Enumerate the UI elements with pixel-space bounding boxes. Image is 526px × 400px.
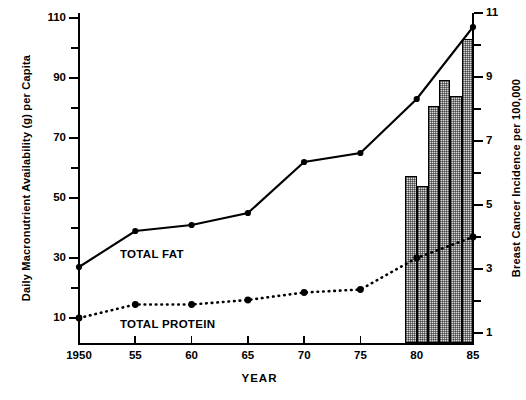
data-point-marker [413, 255, 420, 262]
data-point-marker [301, 289, 308, 296]
data-point-marker [189, 222, 195, 228]
data-point-marker [357, 286, 364, 293]
data-point-marker [76, 264, 82, 270]
total-protein-markers [76, 234, 477, 322]
data-point-marker [188, 301, 195, 308]
data-point-marker [357, 150, 363, 156]
total-fat-markers [76, 24, 476, 270]
data-point-marker [414, 96, 420, 102]
series-label-total-protein: TOTAL PROTEIN [120, 318, 215, 330]
data-point-marker [470, 234, 477, 241]
data-point-marker [132, 301, 139, 308]
data-point-marker [301, 159, 307, 165]
data-point-marker [245, 297, 252, 304]
series-label-total-fat: TOTAL FAT [120, 248, 184, 260]
data-point-marker [245, 210, 251, 216]
data-point-marker [76, 315, 83, 322]
data-point-marker [132, 228, 138, 234]
data-point-marker [470, 24, 476, 30]
